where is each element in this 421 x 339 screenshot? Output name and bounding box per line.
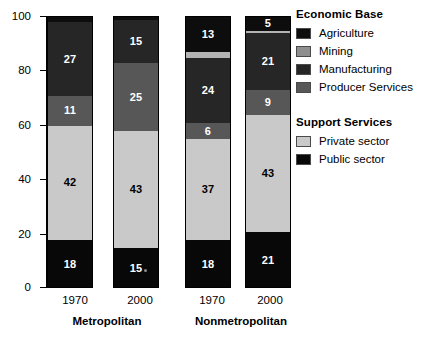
- bar-segment-nonmetro-1970-manufacturing[interactable]: 24: [186, 58, 230, 123]
- legend-item-private-sector[interactable]: Private sector: [296, 132, 421, 150]
- bar-segment-value-label: 9: [265, 97, 271, 108]
- bar-segment-metro-1970-manufacturing[interactable]: 27: [48, 22, 92, 95]
- legend-label-public-sector: Public sector: [319, 153, 385, 165]
- y-tick-label-60: 60: [18, 119, 31, 131]
- bar-segment-metro-2000-manufacturing[interactable]: 15: [114, 20, 158, 64]
- bar-segment-metro-1970-producer-services[interactable]: 11: [48, 96, 92, 126]
- legend-block-economic-base: Economic Base Agriculture Mining Manufac…: [296, 8, 421, 96]
- legend-title-economic-base: Economic Base: [296, 8, 421, 20]
- bar-metro-1970[interactable]: 27114218: [47, 16, 93, 288]
- bar-segment-value-label: 24: [202, 85, 215, 96]
- x-label-nonmetro-1970: 1970: [182, 294, 242, 306]
- legend-label-producer-services: Producer Services: [319, 81, 413, 93]
- group-label-metropolitan: Metropolitan: [42, 315, 172, 327]
- legend-label-private-sector: Private sector: [319, 135, 389, 147]
- legend-item-producer-services[interactable]: Producer Services: [296, 78, 421, 96]
- bar-segment-nonmetro-2000-manufacturing[interactable]: 21: [246, 33, 290, 90]
- y-tick-0: 0: [40, 287, 46, 288]
- bar-nonmetro-2000[interactable]: 52194321: [245, 16, 291, 288]
- legend-label-agriculture: Agriculture: [319, 27, 374, 39]
- bar-segment-value-label: 6: [205, 126, 211, 137]
- bar-segment-value-label: 27: [64, 54, 77, 65]
- legend-spacer: [296, 96, 421, 116]
- legend: Economic Base Agriculture Mining Manufac…: [296, 8, 421, 168]
- legend-item-mining[interactable]: Mining: [296, 42, 421, 60]
- y-tick-20: 20: [40, 234, 46, 235]
- plot-area: 100 80 60 40 20 0 2711421815254315132463…: [46, 16, 286, 288]
- bar-nonmetro-1970[interactable]: 132463718: [185, 16, 231, 288]
- y-tick-label-0: 0: [25, 281, 31, 293]
- y-tick-40: 40: [40, 179, 46, 180]
- x-label-metro-2000: 2000: [110, 294, 170, 306]
- y-tick-label-80: 80: [18, 64, 31, 76]
- y-tick-100: 100: [40, 16, 46, 17]
- bar-segment-value-label: 25: [130, 92, 143, 103]
- legend-item-public-sector[interactable]: Public sector: [296, 150, 421, 168]
- bar-segment-nonmetro-2000-producer-services[interactable]: 9: [246, 90, 290, 114]
- bar-segment-nonmetro-1970-agriculture[interactable]: 13: [186, 17, 230, 52]
- legend-block-support-services: Support Services Private sector Public s…: [296, 116, 421, 168]
- bar-segment-metro-2000-public-sector[interactable]: 15: [114, 248, 158, 288]
- y-tick-60: 60: [40, 125, 46, 126]
- legend-item-agriculture[interactable]: Agriculture: [296, 24, 421, 42]
- scan-artifact-dot-icon: [144, 269, 147, 272]
- legend-swatch-public-sector-icon: [296, 154, 311, 165]
- x-label-nonmetro-2000: 2000: [240, 294, 300, 306]
- bar-segment-nonmetro-2000-agriculture[interactable]: 5: [246, 17, 290, 31]
- x-label-metro-1970: 1970: [45, 294, 105, 306]
- bar-segment-value-label: 42: [64, 177, 77, 188]
- bar-segment-metro-2000-private-sector[interactable]: 43: [114, 131, 158, 248]
- legend-label-mining: Mining: [319, 45, 353, 57]
- y-tick-label-100: 100: [12, 10, 31, 22]
- bar-segment-nonmetro-1970-producer-services[interactable]: 6: [186, 123, 230, 139]
- legend-swatch-private-sector-icon: [296, 136, 311, 147]
- bar-segment-value-label: 13: [202, 29, 215, 40]
- legend-swatch-mining-icon: [296, 46, 311, 57]
- legend-label-manufacturing: Manufacturing: [319, 63, 392, 75]
- bar-segment-metro-2000-producer-services[interactable]: 25: [114, 63, 158, 131]
- bar-segment-value-label: 5: [265, 18, 271, 29]
- legend-swatch-agriculture-icon: [296, 28, 311, 39]
- bar-segment-value-label: 18: [202, 259, 215, 270]
- bar-segment-value-label: 21: [262, 56, 275, 67]
- bar-segment-metro-1970-private-sector[interactable]: 42: [48, 126, 92, 240]
- bar-segment-value-label: 18: [64, 259, 77, 270]
- bar-segment-value-label: 21: [262, 255, 275, 266]
- y-tick-label-20: 20: [18, 228, 31, 240]
- bar-segment-nonmetro-2000-public-sector[interactable]: 21: [246, 232, 290, 288]
- bar-segment-nonmetro-2000-private-sector[interactable]: 43: [246, 115, 290, 232]
- bar-segment-value-label: 43: [262, 168, 275, 179]
- y-tick-label-40: 40: [18, 173, 31, 185]
- legend-item-manufacturing[interactable]: Manufacturing: [296, 60, 421, 78]
- bar-segment-metro-1970-public-sector[interactable]: 18: [48, 240, 92, 288]
- y-tick-80: 80: [40, 70, 46, 71]
- legend-title-support-services: Support Services: [296, 116, 421, 128]
- legend-swatch-manufacturing-icon: [296, 64, 311, 75]
- bar-metro-2000[interactable]: 15254315: [113, 16, 159, 288]
- bar-segment-value-label: 15: [130, 263, 143, 274]
- group-label-nonmetropolitan: Nonmetropolitan: [176, 315, 306, 327]
- bar-segment-nonmetro-1970-private-sector[interactable]: 37: [186, 139, 230, 240]
- bar-segment-value-label: 15: [130, 36, 143, 47]
- stacked-bar-chart: 100 80 60 40 20 0 2711421815254315132463…: [0, 0, 421, 339]
- legend-swatch-producer-services-icon: [296, 82, 311, 93]
- bar-segment-value-label: 11: [64, 105, 76, 116]
- bar-segment-value-label: 43: [130, 184, 143, 195]
- bar-segment-value-label: 37: [202, 184, 215, 195]
- bar-segment-nonmetro-1970-public-sector[interactable]: 18: [186, 240, 230, 288]
